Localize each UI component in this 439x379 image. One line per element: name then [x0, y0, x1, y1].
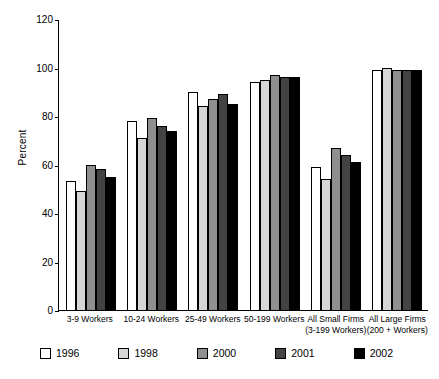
legend-item: 2002 — [342, 348, 420, 359]
x-axis-label-line2: (200 + Workers) — [367, 325, 429, 336]
bar-group — [183, 20, 244, 310]
y-axis-tick-label: 20 — [19, 258, 53, 268]
chart-legend: 19961998200020012002 — [28, 348, 420, 359]
x-axis-label-line2: (3-199 Workers) — [305, 325, 367, 336]
legend-item: 1998 — [106, 348, 184, 359]
y-axis-tick-mark — [55, 311, 59, 312]
bar — [321, 179, 331, 310]
x-axis-label-line1: 3-9 Workers — [67, 314, 113, 324]
bar-group — [60, 20, 121, 310]
legend-swatch-icon — [197, 348, 208, 359]
x-axis-label: All Large Firms(200 + Workers) — [367, 314, 429, 336]
bar — [106, 177, 116, 310]
bar — [228, 104, 238, 310]
bar — [341, 155, 351, 310]
y-axis-tick-label: 100 — [19, 64, 53, 74]
y-axis-tick-label: 40 — [19, 209, 53, 219]
plot-area: 020406080100120 — [58, 20, 428, 311]
bar — [392, 70, 402, 310]
legend-item: 2001 — [263, 348, 341, 359]
x-axis-label-line1: 50-199 Workers — [244, 314, 304, 324]
bar — [96, 169, 106, 310]
bar — [86, 165, 96, 311]
legend-item: 1996 — [28, 348, 106, 359]
bar — [250, 82, 260, 310]
x-axis-label-line1: 25-49 Workers — [185, 314, 241, 324]
bar — [157, 126, 167, 310]
bar-group — [121, 20, 182, 310]
bar-groups — [60, 20, 428, 310]
x-axis-label-line1: 10-24 Workers — [123, 314, 179, 324]
y-axis-tick-label: 80 — [19, 112, 53, 122]
x-axis-label-line1: All Large Firms — [369, 314, 426, 324]
bar — [280, 77, 290, 310]
bar-group — [367, 20, 428, 310]
bar — [147, 118, 157, 310]
legend-swatch-icon — [275, 348, 286, 359]
bar — [218, 94, 228, 310]
bar-group — [244, 20, 305, 310]
legend-label: 2002 — [370, 348, 393, 359]
y-axis-tick-label: 60 — [19, 161, 53, 171]
legend-label: 1996 — [56, 348, 79, 359]
bar — [412, 70, 422, 310]
y-axis-tick-mark — [55, 166, 59, 167]
bar — [66, 181, 76, 310]
x-axis-label: All Small Firms(3-199 Workers) — [305, 314, 367, 336]
x-axis-label: 3-9 Workers — [59, 314, 121, 336]
legend-label: 2000 — [213, 348, 236, 359]
x-axis-label: 50-199 Workers — [244, 314, 306, 336]
bar — [372, 70, 382, 310]
x-axis-labels: 3-9 Workers10-24 Workers25-49 Workers50-… — [59, 314, 428, 336]
bar — [260, 80, 270, 310]
bar — [331, 148, 341, 310]
legend-swatch-icon — [354, 348, 365, 359]
bar-chart: Percent 020406080100120 3-9 Workers10-24… — [0, 0, 439, 379]
bar — [382, 68, 392, 311]
bar — [137, 138, 147, 310]
y-axis-tick-mark — [55, 117, 59, 118]
bar — [127, 121, 137, 310]
bar-group — [305, 20, 366, 310]
bar — [402, 70, 412, 310]
bar — [167, 131, 177, 310]
x-axis-label-line1: All Small Firms — [307, 314, 364, 324]
bar — [188, 92, 198, 310]
y-axis-tick-mark — [55, 69, 59, 70]
y-axis-tick-mark — [55, 20, 59, 21]
y-axis-tick-mark — [55, 263, 59, 264]
x-axis-label: 10-24 Workers — [121, 314, 183, 336]
legend-swatch-icon — [118, 348, 129, 359]
x-axis-label: 25-49 Workers — [182, 314, 244, 336]
bar — [198, 106, 208, 310]
y-axis-tick-label: 0 — [19, 306, 53, 316]
y-axis-tick-mark — [55, 214, 59, 215]
bar — [270, 75, 280, 310]
bar — [311, 167, 321, 310]
bar — [76, 191, 86, 310]
legend-label: 2001 — [291, 348, 314, 359]
bar — [351, 162, 361, 310]
bar — [290, 77, 300, 310]
y-axis-tick-label: 120 — [19, 15, 53, 25]
bar — [208, 99, 218, 310]
legend-item: 2000 — [185, 348, 263, 359]
legend-label: 1998 — [134, 348, 157, 359]
legend-swatch-icon — [40, 348, 51, 359]
